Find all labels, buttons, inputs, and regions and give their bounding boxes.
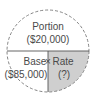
multiply-operator: × bbox=[45, 56, 51, 67]
portion-label: Portion bbox=[32, 21, 64, 32]
portion-value: ($20,000) bbox=[27, 34, 70, 45]
portion-base-rate-diagram: Portion ($20,000) Base × Rate ($85,000) … bbox=[0, 0, 95, 102]
base-label: Base bbox=[24, 56, 47, 67]
rate-label: Rate bbox=[52, 56, 74, 67]
rate-value: (?) bbox=[58, 69, 70, 80]
base-value: ($85,000) bbox=[5, 69, 48, 80]
